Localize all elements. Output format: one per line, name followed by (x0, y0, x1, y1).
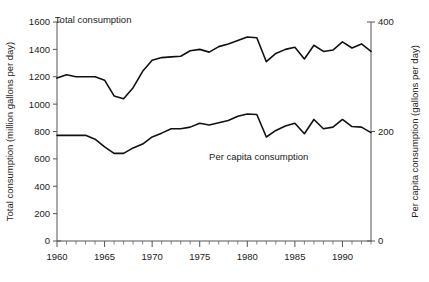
x-axis-tick-label: 1985 (284, 251, 305, 262)
x-axis-tick-label: 1970 (142, 251, 163, 262)
x-axis-tick-label: 1965 (94, 251, 115, 262)
left-axis-spine (57, 22, 61, 241)
x-axis-tick-label: 1980 (237, 251, 258, 262)
line-chart-svg: 0200400600800100012001400160002004001960… (0, 0, 429, 282)
y-axis-title: Total consumption (million gallons per d… (4, 42, 15, 222)
y-axis-tick-label: 600 (34, 153, 50, 164)
chart-annotation: Total consumption (55, 14, 132, 25)
y-axis-tick-label: 1200 (29, 71, 50, 82)
y-axis-tick-label: 0 (45, 235, 50, 246)
y2-axis-title: Per capita consumption (gallons per day) (409, 45, 420, 218)
y-axis-tick-label: 400 (34, 181, 50, 192)
x-axis-tick-label: 1975 (189, 251, 210, 262)
y2-axis-tick-label: 0 (378, 235, 383, 246)
y-axis-tick-label: 1000 (29, 99, 50, 110)
y2-axis-tick-label: 400 (378, 16, 394, 27)
chart-annotation: Per capita consumption (209, 151, 308, 162)
x-axis-tick-label: 1990 (332, 251, 353, 262)
y-axis-tick-label: 1600 (29, 16, 50, 27)
series-line-per-capita-consumption (57, 114, 371, 153)
x-axis-tick-label: 1960 (46, 251, 67, 262)
y-axis-tick-label: 1400 (29, 44, 50, 55)
y2-axis-tick-label: 200 (378, 126, 394, 137)
chart-figure: 0200400600800100012001400160002004001960… (0, 0, 429, 282)
y-axis-tick-label: 200 (34, 208, 50, 219)
series-line-total-consumption (57, 37, 371, 99)
y-axis-tick-label: 800 (34, 126, 50, 137)
